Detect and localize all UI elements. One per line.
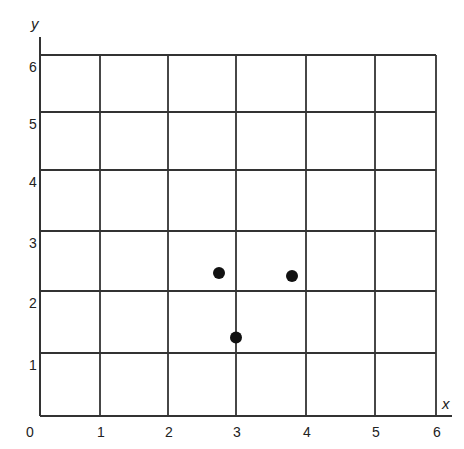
x-tick-0: 0 [26,424,34,440]
data-point-1 [213,267,225,279]
y-tick-1: 1 [29,357,37,373]
y-tick-3: 3 [29,235,37,251]
x-axis-title: x [441,395,450,412]
scatter-chart: y x 0123456 123456 [0,0,464,449]
y-tick-5: 5 [29,116,37,132]
y-tick-6: 6 [29,59,37,75]
x-tick-2: 2 [165,424,173,440]
y-tick-4: 4 [29,174,37,190]
data-point-2 [286,270,298,282]
y-tick-2: 2 [29,295,37,311]
y-tick-labels: 123456 [29,59,37,373]
x-tick-5: 5 [372,424,380,440]
x-tick-labels: 0123456 [26,424,441,440]
x-tick-4: 4 [303,424,311,440]
data-points [213,267,298,344]
y-axis-title: y [30,15,40,32]
x-tick-6: 6 [433,424,441,440]
data-point-3 [230,332,242,344]
axes: y x [30,15,452,416]
x-tick-1: 1 [97,424,105,440]
x-tick-3: 3 [233,424,241,440]
grid [40,55,436,416]
